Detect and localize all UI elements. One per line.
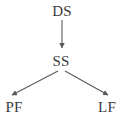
node-pf: PF <box>5 100 22 115</box>
node-ds: DS <box>52 4 72 19</box>
edge-ss-to-pf <box>12 71 58 95</box>
node-ss: SS <box>52 54 69 69</box>
diagram-canvas: DS SS PF LF <box>0 0 121 117</box>
node-lf: LF <box>98 100 116 115</box>
edge-ss-to-lf <box>65 71 108 95</box>
